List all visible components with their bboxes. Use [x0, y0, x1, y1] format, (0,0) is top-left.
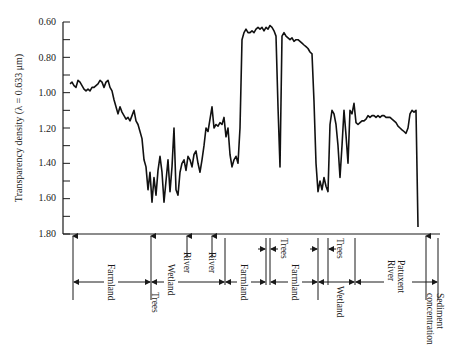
transparency-density-chart: 0.60 0.80 1.00 1.20 1.40 1.60 1.80 Trans… — [0, 0, 456, 362]
zone-label-trees: Trees — [150, 292, 160, 313]
zone-label-sediment-concentration: Sediment — [435, 293, 445, 329]
zone-label-patuxent-river: River — [386, 260, 396, 282]
y-ticks — [63, 22, 70, 234]
y-tick-label: 0.80 — [39, 52, 57, 63]
zone-labels: Farmland Trees Wetland River River Farml… — [104, 238, 445, 345]
y-tick-label: 1.20 — [39, 123, 57, 134]
land-cover-annotations — [73, 236, 438, 300]
zone-label-trees: Trees — [335, 238, 345, 259]
zone-label-farmland: Farmland — [106, 264, 116, 301]
zone-label-river: River — [182, 252, 192, 274]
zone-label-sediment-concentration: concentration — [425, 293, 435, 345]
y-tick-label: 0.60 — [39, 16, 57, 27]
y-axis: 0.60 0.80 1.00 1.20 1.40 1.60 1.80 Trans… — [13, 16, 440, 239]
zone-label-trees: Trees — [279, 238, 289, 259]
y-tick-label: 1.00 — [39, 87, 57, 98]
y-tick-label: 1.80 — [39, 228, 57, 239]
transparency-density-line — [70, 26, 418, 227]
y-tick-label: 1.40 — [39, 157, 57, 168]
zone-label-farmland: Farmland — [239, 264, 249, 301]
zone-label-patuxent-river: Patuxent — [396, 260, 406, 294]
y-axis-title: Transparency density (λ = 0.633 μm) — [13, 54, 25, 202]
zone-label-wetland: Wetland — [166, 264, 176, 296]
zone-label-farmland: Farmland — [290, 264, 300, 301]
y-tick-label: 1.60 — [39, 192, 57, 203]
zone-label-river: River — [207, 252, 217, 274]
zone-label-wetland: Wetland — [335, 286, 345, 318]
